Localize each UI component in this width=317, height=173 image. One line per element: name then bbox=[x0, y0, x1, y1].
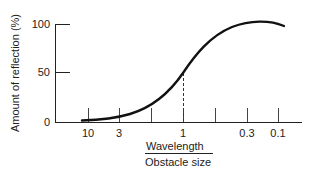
x-tick-label-0.1: 0.1 bbox=[270, 127, 285, 139]
x-tick-label-10: 10 bbox=[82, 127, 94, 139]
y-tick-label-50: 50 bbox=[38, 66, 50, 78]
x-axis-title-denominator: Obstacle size bbox=[145, 156, 211, 168]
x-axis-title-numerator: Wavelength bbox=[146, 140, 204, 152]
y-tick-label-0: 0 bbox=[44, 116, 50, 128]
y-tick-label-100: 100 bbox=[32, 18, 50, 30]
x-tick-label-1: 1 bbox=[180, 127, 186, 139]
x-tick-label-3: 3 bbox=[116, 127, 122, 139]
reflection-chart: Amount of reflection (%) 100 50 0 10 3 1… bbox=[0, 0, 317, 173]
y-axis-title: Amount of reflection (%) bbox=[9, 14, 21, 132]
x-tick-label-0.3: 0.3 bbox=[239, 127, 254, 139]
